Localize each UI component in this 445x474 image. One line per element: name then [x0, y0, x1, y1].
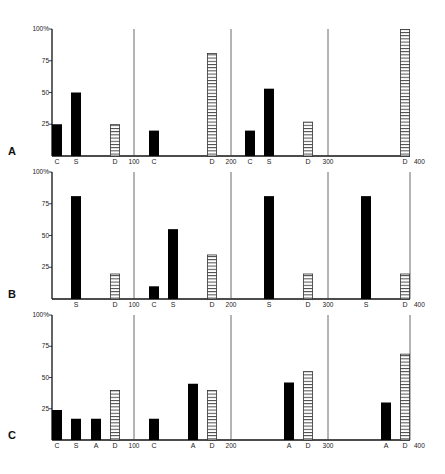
x-section-label: 400: [414, 301, 425, 308]
bar-category-label: A: [384, 442, 389, 449]
y-tick-label: 100%: [32, 25, 49, 32]
y-tick-label: 100%: [32, 311, 49, 318]
bar-category-label: C: [247, 158, 252, 165]
bar-category-label: D: [402, 158, 407, 165]
bar-category-label: D: [305, 301, 310, 308]
x-section-label: 100: [129, 301, 140, 308]
bar-category-label: D: [402, 301, 407, 308]
bar-category-label: A: [191, 442, 196, 449]
bar-s: [361, 196, 371, 299]
bar-a: [381, 403, 391, 441]
bar-category-label: D: [112, 158, 117, 165]
panel-a: A100%755025100200300400CSDCDCSDD: [8, 25, 425, 165]
bar-category-label: D: [112, 442, 117, 449]
bar-category-label: A: [287, 442, 292, 449]
bar-category-label: D: [402, 442, 407, 449]
x-section-label: 300: [323, 158, 334, 165]
x-section-label: 400: [414, 158, 425, 165]
x-section-label: 300: [323, 301, 334, 308]
y-tick-label: 75: [42, 57, 50, 64]
bar-c: [52, 410, 62, 440]
bar-category-label: D: [112, 301, 117, 308]
bar-c: [245, 131, 255, 156]
y-tick-label: 75: [42, 342, 50, 349]
bar-category-label: C: [54, 442, 59, 449]
bar-category-label: C: [54, 158, 59, 165]
bar-a: [284, 383, 294, 441]
bar-category-label: D: [305, 442, 310, 449]
x-section-label: 200: [226, 301, 237, 308]
bar-d-hatched: [207, 255, 216, 299]
bar-c: [149, 419, 159, 440]
y-tick-label: 75: [42, 200, 50, 207]
bar-s: [168, 229, 178, 299]
bar-category-label: D: [209, 158, 214, 165]
panels-group: A100%755025100200300400CSDCDCSDDB100%755…: [8, 25, 425, 449]
y-tick-label: 50: [42, 374, 50, 381]
bar-category-label: S: [364, 301, 369, 308]
bar-category-label: A: [94, 442, 99, 449]
y-tick-label: 100%: [32, 168, 49, 175]
bar-c: [52, 124, 62, 156]
bar-category-label: S: [74, 301, 79, 308]
y-tick-label: 25: [42, 405, 50, 412]
bar-d-hatched: [303, 372, 312, 440]
y-tick-label: 25: [42, 263, 50, 270]
bar-s: [71, 93, 81, 157]
bar-d-hatched: [400, 29, 409, 156]
bar-d-hatched: [110, 125, 119, 156]
bar-d-hatched: [303, 274, 312, 299]
bar-category-label: S: [171, 301, 176, 308]
panel-label: B: [8, 288, 16, 300]
bar-c: [149, 286, 159, 299]
y-tick-label: 50: [42, 89, 50, 96]
bar-s: [264, 196, 274, 299]
bar-category-label: C: [151, 301, 156, 308]
bar-category-label: S: [267, 158, 272, 165]
bar-category-label: D: [209, 442, 214, 449]
bar-category-label: S: [74, 442, 79, 449]
bar-category-label: S: [74, 158, 79, 165]
y-tick-label: 50: [42, 232, 50, 239]
chart-figure: A100%755025100200300400CSDCDCSDDB100%755…: [0, 0, 445, 474]
panel-label: C: [8, 429, 16, 441]
bar-d-hatched: [207, 390, 216, 440]
bar-category-label: C: [151, 442, 156, 449]
bar-d-hatched: [400, 274, 409, 299]
panel-b: B100%755025100200300400SDCSDSDSD: [8, 168, 425, 308]
bar-a: [91, 419, 101, 440]
bar-d-hatched: [207, 54, 216, 156]
y-tick-label: 25: [42, 120, 50, 127]
x-section-label: 300: [323, 442, 334, 449]
panel-c: C100%755025100200300400CSADCADADAD: [8, 311, 425, 449]
x-section-label: 200: [226, 442, 237, 449]
bar-d-hatched: [400, 354, 409, 440]
panel-label: A: [8, 145, 16, 157]
bar-category-label: D: [305, 158, 310, 165]
bar-s: [71, 419, 81, 440]
bar-category-label: C: [151, 158, 156, 165]
bar-d-hatched: [110, 274, 119, 299]
bar-s: [71, 196, 81, 299]
bar-category-label: S: [267, 301, 272, 308]
x-section-label: 400: [414, 442, 425, 449]
bar-c: [149, 131, 159, 156]
bar-a: [188, 384, 198, 440]
bar-d-hatched: [110, 390, 119, 440]
x-section-label: 100: [129, 442, 140, 449]
bar-category-label: D: [209, 301, 214, 308]
x-section-label: 200: [226, 158, 237, 165]
bar-d-hatched: [303, 122, 312, 156]
bar-s: [264, 89, 274, 156]
x-section-label: 100: [129, 158, 140, 165]
